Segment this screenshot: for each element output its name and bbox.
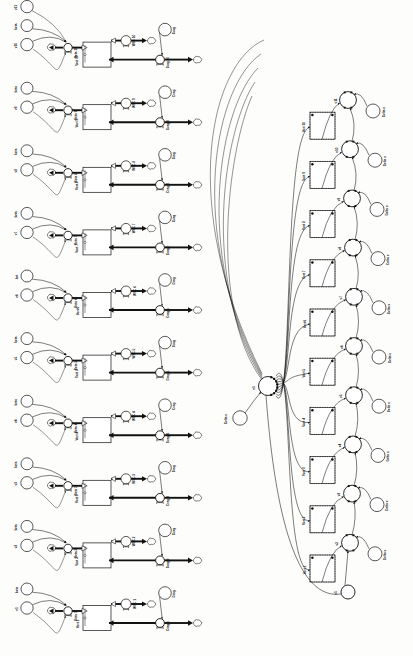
delta-node-v4[interactable]	[371, 448, 385, 462]
aux-WSC 10[interactable]	[121, 36, 131, 46]
delta-node-v10[interactable]	[368, 153, 382, 167]
node-v4[interactable]	[345, 436, 362, 453]
node-v1[interactable]	[341, 585, 355, 599]
beta-valve-Beta 8[interactable]	[64, 169, 72, 177]
beta-valve-Beta 1[interactable]	[64, 607, 72, 615]
beta-valve-Beta 6[interactable]	[64, 294, 72, 302]
drag-valve-Drag 5[interactable]	[156, 368, 165, 377]
drag-valve-Drag 9[interactable]	[156, 118, 165, 127]
aux-drag-1[interactable]	[159, 587, 172, 600]
stock-box-Vort 1[interactable]	[83, 606, 111, 631]
node-v7[interactable]	[346, 288, 363, 305]
beta-valve-Beta 3[interactable]	[64, 482, 72, 490]
aux-var-v11[interactable]	[21, 0, 33, 12]
drag-valve-Drag 1[interactable]	[156, 619, 165, 628]
aux-var-v10[interactable]	[21, 38, 33, 50]
aux-drag-3[interactable]	[159, 462, 172, 475]
aux-beta-src-5[interactable]	[21, 333, 33, 345]
aux-var-v3[interactable]	[21, 477, 33, 489]
node-v8[interactable]	[345, 239, 362, 256]
stock-box-Vort 3[interactable]	[83, 480, 111, 505]
aux-beta-src-7[interactable]	[21, 207, 33, 219]
beta-valve-Beta 4[interactable]	[64, 419, 72, 427]
aux-var-v5[interactable]	[21, 351, 33, 363]
aux-beta-src-6[interactable]	[21, 270, 33, 282]
node-v11[interactable]	[340, 92, 357, 109]
delta-node-v11[interactable]	[366, 104, 380, 118]
delta-node-v9[interactable]	[370, 202, 384, 216]
aux-var-v8[interactable]	[21, 164, 33, 176]
drag-valve-Drag 10[interactable]	[156, 55, 165, 64]
stock-box-Vort 6[interactable]	[83, 293, 111, 318]
aux-drag-9[interactable]	[159, 86, 172, 99]
aux-var-v9[interactable]	[21, 101, 33, 113]
node-v3[interactable]	[344, 485, 361, 502]
aux-WSC 4[interactable]	[121, 411, 131, 421]
stock-box-Vort 7[interactable]	[83, 230, 111, 255]
aux-var-v1[interactable]	[21, 602, 33, 614]
aux-var-v4[interactable]	[21, 414, 33, 426]
aux-drag-8[interactable]	[159, 149, 172, 162]
stock-box-Vort 8[interactable]	[310, 211, 335, 238]
stock-box-Vort 5[interactable]	[310, 358, 335, 385]
aux-beta-src-1[interactable]	[21, 583, 33, 595]
stock-box-Vort 4[interactable]	[83, 418, 111, 443]
aux-var-v7[interactable]	[21, 226, 33, 238]
aux-beta-src-10[interactable]	[21, 20, 33, 32]
aux-var-v2[interactable]	[21, 539, 33, 551]
aux-WSC 8[interactable]	[121, 161, 131, 171]
delta-node-v2[interactable]	[368, 547, 382, 561]
stock-box-Vort 5[interactable]	[83, 355, 111, 380]
node-v9[interactable]	[344, 190, 361, 207]
delta-node-v5[interactable]	[372, 399, 386, 413]
stock-box-Vort 2[interactable]	[83, 543, 111, 568]
stock-box-Vort 7[interactable]	[310, 260, 335, 287]
aux-drag-6[interactable]	[159, 274, 172, 287]
aux-drag-7[interactable]	[159, 211, 172, 224]
stock-box-Vort 8[interactable]	[83, 167, 111, 192]
stock-box-Vort 6[interactable]	[310, 309, 335, 336]
beta-valve-Beta 5[interactable]	[64, 356, 72, 364]
aux-beta-src-2[interactable]	[21, 520, 33, 532]
beta-valve-Beta 10[interactable]	[64, 43, 72, 51]
delta-node-v8[interactable]	[371, 252, 385, 266]
node-v5[interactable]	[346, 387, 363, 404]
stock-box-Vort 9[interactable]	[310, 161, 335, 188]
node-v2[interactable]	[342, 534, 359, 551]
aux-WSC 7[interactable]	[121, 223, 131, 233]
aux-WSC 2[interactable]	[121, 536, 131, 546]
aux-drag-5[interactable]	[159, 336, 172, 349]
aux-beta-src-9[interactable]	[21, 82, 33, 94]
stock-box-Vort 3[interactable]	[310, 457, 335, 484]
drag-valve-Drag 3[interactable]	[156, 493, 165, 502]
stock-box-Vort 10[interactable]	[310, 112, 335, 139]
aux-beta-src-4[interactable]	[21, 395, 33, 407]
stock-box-Vort 2[interactable]	[310, 506, 335, 533]
aux-WSC 1[interactable]	[121, 599, 131, 609]
stock-box-Vort 1[interactable]	[310, 555, 335, 582]
stock-box-Vort 10[interactable]	[83, 42, 111, 67]
aux-drag-4[interactable]	[159, 399, 172, 412]
drag-valve-Drag 7[interactable]	[156, 243, 165, 252]
delta-node-v3[interactable]	[370, 498, 384, 512]
beta-valve-Beta 7[interactable]	[64, 231, 72, 239]
drag-valve-Drag 4[interactable]	[156, 431, 165, 440]
aux-WSC 9[interactable]	[121, 98, 131, 108]
delta-node-v6[interactable]	[372, 350, 386, 364]
delta-node-v7[interactable]	[372, 301, 386, 315]
aux-WSC 6[interactable]	[121, 286, 131, 296]
aux-beta-src-8[interactable]	[21, 145, 33, 157]
aux-drag-10[interactable]	[159, 23, 172, 36]
drag-valve-Drag 8[interactable]	[156, 180, 165, 189]
node-v10[interactable]	[342, 141, 359, 158]
aux-beta-src-3[interactable]	[21, 458, 33, 470]
beta-valve-Beta 2[interactable]	[64, 544, 72, 552]
drag-valve-Drag 2[interactable]	[156, 556, 165, 565]
aux-WSC 5[interactable]	[121, 349, 131, 359]
aux-drag-2[interactable]	[159, 524, 172, 537]
node-v6[interactable]	[346, 338, 363, 355]
aux-var-v6[interactable]	[21, 289, 33, 301]
drag-valve-Drag 6[interactable]	[156, 306, 165, 315]
stock-box-Vort 4[interactable]	[310, 407, 335, 434]
stock-box-Vort 9[interactable]	[83, 105, 111, 130]
